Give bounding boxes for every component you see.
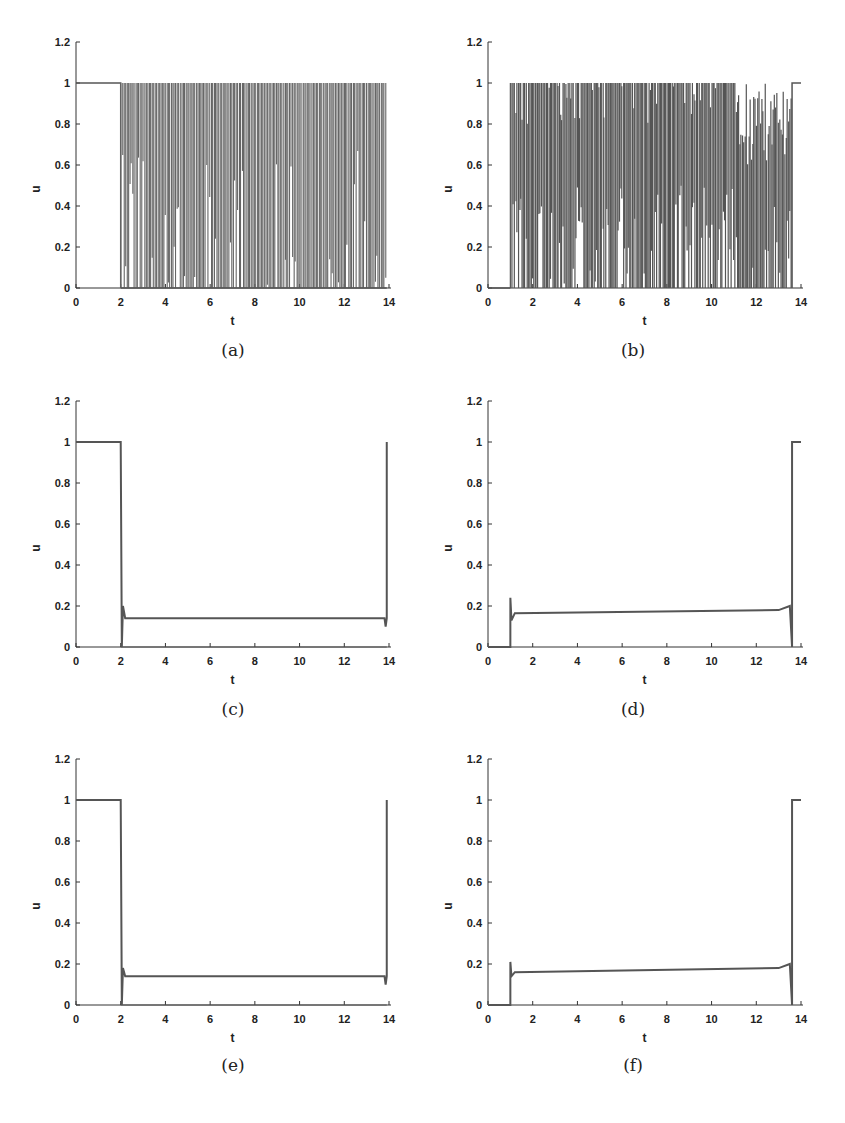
x-tick-label: 4 — [574, 296, 581, 308]
x-tick-label: 2 — [118, 655, 124, 667]
plot-area: 0246810121400.20.40.60.811.2tu — [441, 753, 808, 1045]
y-axis-label: u — [29, 544, 43, 551]
y-tick-label: 0.8 — [55, 118, 70, 130]
panel-c: 0246810121400.20.40.60.811.2tu — [0, 359, 420, 714]
y-tick-label: 0 — [64, 282, 70, 294]
y-tick-label: 1.2 — [55, 36, 70, 48]
x-tick-label: 14 — [795, 296, 808, 308]
caption-e: (e) — [203, 1055, 263, 1075]
x-axis-label: t — [643, 673, 647, 687]
x-tick-label: 2 — [530, 296, 536, 308]
x-tick-label: 8 — [252, 1013, 258, 1025]
chart-e: 0246810121400.20.40.60.811.2tu — [0, 717, 420, 1047]
x-tick-label: 10 — [293, 1013, 305, 1025]
y-tick-label: 1 — [64, 436, 70, 448]
x-tick-label: 0 — [485, 655, 491, 667]
x-tick-label: 8 — [664, 1013, 670, 1025]
y-tick-label: 1.2 — [55, 753, 70, 765]
x-tick-label: 12 — [750, 655, 762, 667]
y-tick-label: 1 — [64, 77, 70, 89]
panel-e: 0246810121400.20.40.60.811.2tu — [0, 717, 420, 1072]
y-tick-label: 1 — [476, 436, 482, 448]
caption-f: (f) — [603, 1055, 663, 1075]
y-tick-label: 0.4 — [467, 200, 483, 212]
plot-area: 0246810121400.20.40.60.811.2tu — [441, 36, 808, 328]
panel-f: 0246810121400.20.40.60.811.2tu — [412, 717, 832, 1072]
panel-a: 0246810121400.20.40.60.811.2tu — [0, 0, 420, 355]
x-tick-label: 8 — [252, 296, 258, 308]
x-tick-label: 12 — [750, 296, 762, 308]
y-tick-label: 0.8 — [467, 835, 482, 847]
y-tick-label: 1.2 — [467, 753, 482, 765]
y-tick-label: 0.8 — [467, 477, 482, 489]
x-tick-label: 0 — [485, 296, 491, 308]
x-tick-label: 6 — [207, 1013, 213, 1025]
y-tick-label: 0.2 — [467, 958, 482, 970]
y-axis-label: u — [441, 544, 455, 551]
x-tick-label: 12 — [338, 1013, 350, 1025]
x-tick-label: 14 — [383, 1013, 396, 1025]
caption-a: (a) — [203, 340, 263, 360]
y-axis-label: u — [441, 902, 455, 909]
y-tick-label: 0.2 — [55, 241, 70, 253]
y-axis-label: u — [441, 185, 455, 192]
chart-c: 0246810121400.20.40.60.811.2tu — [0, 359, 420, 689]
x-tick-label: 2 — [118, 296, 124, 308]
x-tick-label: 14 — [383, 296, 396, 308]
y-tick-label: 0.6 — [467, 518, 482, 530]
panel-d: 0246810121400.20.40.60.811.2tu — [412, 359, 832, 714]
x-tick-label: 10 — [705, 1013, 717, 1025]
y-axis-label: u — [29, 185, 43, 192]
plot-area: 0246810121400.20.40.60.811.2tu — [29, 36, 396, 328]
caption-d: (d) — [603, 699, 663, 719]
y-tick-label: 0 — [476, 641, 482, 653]
y-tick-label: 0.8 — [55, 477, 70, 489]
x-tick-label: 14 — [795, 655, 808, 667]
x-tick-label: 4 — [574, 1013, 581, 1025]
y-tick-label: 0 — [476, 282, 482, 294]
x-axis-label: t — [643, 1031, 647, 1045]
y-tick-label: 0.4 — [55, 559, 71, 571]
x-tick-label: 6 — [619, 1013, 625, 1025]
caption-c: (c) — [203, 699, 263, 719]
y-tick-label: 0.4 — [467, 559, 483, 571]
x-tick-label: 14 — [795, 1013, 808, 1025]
chart-a: 0246810121400.20.40.60.811.2tu — [0, 0, 420, 330]
plot-area: 0246810121400.20.40.60.811.2tu — [29, 395, 396, 687]
x-tick-label: 4 — [574, 655, 581, 667]
y-axis-label: u — [29, 902, 43, 909]
y-tick-label: 0.4 — [467, 917, 483, 929]
x-tick-label: 4 — [162, 655, 169, 667]
x-tick-label: 8 — [664, 655, 670, 667]
y-tick-label: 0.2 — [55, 600, 70, 612]
y-tick-label: 0.4 — [55, 917, 71, 929]
y-tick-label: 1 — [476, 77, 482, 89]
plot-area: 0246810121400.20.40.60.811.2tu — [441, 395, 808, 687]
chart-f: 0246810121400.20.40.60.811.2tu — [412, 717, 832, 1047]
x-tick-label: 2 — [530, 1013, 536, 1025]
x-axis-label: t — [231, 673, 235, 687]
y-tick-label: 0 — [476, 999, 482, 1011]
y-tick-label: 0.2 — [467, 600, 482, 612]
x-tick-label: 14 — [383, 655, 396, 667]
x-tick-label: 4 — [162, 1013, 169, 1025]
x-tick-label: 0 — [73, 1013, 79, 1025]
x-tick-label: 0 — [73, 655, 79, 667]
y-tick-label: 0.6 — [55, 876, 70, 888]
x-tick-label: 10 — [293, 655, 305, 667]
y-tick-label: 0.8 — [55, 835, 70, 847]
x-tick-label: 6 — [619, 655, 625, 667]
x-tick-label: 0 — [73, 296, 79, 308]
y-tick-label: 1.2 — [55, 395, 70, 407]
x-axis-label: t — [643, 314, 647, 328]
x-tick-label: 12 — [338, 655, 350, 667]
x-tick-label: 12 — [338, 296, 350, 308]
x-tick-label: 10 — [705, 296, 717, 308]
x-tick-label: 6 — [207, 296, 213, 308]
y-tick-label: 0.8 — [467, 118, 482, 130]
x-tick-label: 2 — [530, 655, 536, 667]
control-curve — [76, 800, 387, 1005]
control-curve — [488, 800, 801, 1005]
x-tick-label: 4 — [162, 296, 169, 308]
x-axis-label: t — [231, 314, 235, 328]
